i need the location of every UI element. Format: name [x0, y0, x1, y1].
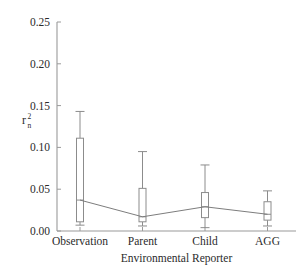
y-tick-label: 0.05	[30, 183, 50, 195]
chart-labels: ObservationParentChildAGGEnvironmental R…	[22, 112, 280, 266]
y-axis-title-superscript: 2	[28, 112, 32, 121]
x-axis-title: Environmental Reporter	[121, 252, 233, 265]
box-rectangle	[202, 193, 209, 218]
box-rectangle	[77, 138, 84, 222]
median-connector-polyline	[80, 200, 268, 217]
boxplot-chart: 0.000.050.100.150.200.25 ObservationPare…	[0, 0, 301, 277]
y-tick-label: 0.00	[30, 225, 50, 237]
box-plot-series	[76, 111, 273, 227]
y-axis-title-subscript: n	[28, 121, 32, 130]
box-plot-observation	[76, 111, 85, 225]
x-category-label-agg: AGG	[255, 235, 280, 247]
median-connector-line	[80, 200, 268, 217]
y-tick-label: 0.25	[30, 16, 50, 28]
x-category-label-child: Child	[192, 235, 218, 247]
y-tick-label: 0.10	[30, 141, 50, 153]
box-rectangle	[264, 202, 271, 220]
x-category-label-parent: Parent	[128, 235, 158, 247]
y-axis: 0.000.050.100.150.200.25	[30, 16, 61, 237]
box-plot-child	[201, 165, 210, 228]
y-axis-title-base: r	[22, 113, 26, 127]
box-plot-agg	[263, 191, 272, 226]
chart-canvas: 0.000.050.100.150.200.25 ObservationPare…	[0, 0, 301, 277]
box-plot-parent	[138, 152, 147, 226]
y-tick-label: 0.15	[30, 100, 50, 112]
x-category-label-observation: Observation	[52, 235, 108, 247]
y-tick-label: 0.20	[30, 58, 50, 70]
x-axis	[57, 227, 296, 231]
